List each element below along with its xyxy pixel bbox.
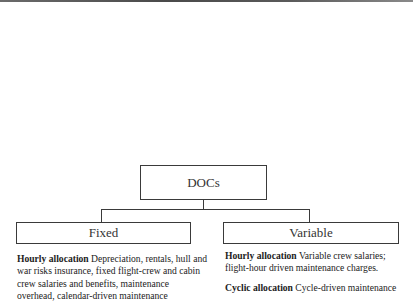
connector-fixed-vertical	[101, 209, 102, 222]
variable-node: Variable	[223, 222, 399, 244]
variable-hourly-allocation: Hourly allocation Variable crew salaries…	[225, 250, 410, 275]
fixed-description: Hourly allocation Depreciation, rentals,…	[17, 253, 207, 305]
variable-description: Hourly allocation Variable crew salaries…	[225, 250, 410, 301]
top-edge-bar	[0, 0, 413, 2]
fixed-node: Fixed	[16, 222, 191, 244]
variable-node-label: Variable	[289, 225, 332, 241]
variable-cyclic-text: Cycle-driven maintenance	[295, 282, 396, 293]
variable-cyclic-heading: Cyclic allocation	[225, 282, 293, 293]
docs-node-label: DOCs	[187, 175, 220, 191]
fixed-hourly-heading: Hourly allocation	[17, 253, 89, 264]
fixed-hourly-allocation: Hourly allocation Depreciation, rentals,…	[17, 253, 207, 302]
fixed-node-label: Fixed	[89, 225, 119, 241]
connector-variable-vertical	[309, 209, 310, 222]
variable-hourly-heading: Hourly allocation	[225, 250, 297, 261]
docs-node: DOCs	[140, 165, 267, 200]
variable-cyclic-allocation: Cyclic allocation Cycle-driven maintenan…	[225, 282, 410, 294]
connector-horizontal	[101, 209, 310, 210]
